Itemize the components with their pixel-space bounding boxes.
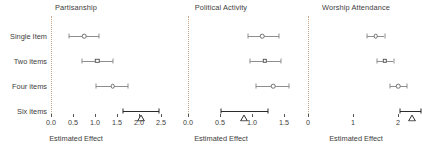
error-bar-cap bbox=[420, 109, 421, 114]
plot-area bbox=[290, 16, 422, 114]
x-axis-tick bbox=[398, 114, 399, 117]
x-axis-tick-label: 0 bbox=[306, 118, 310, 127]
data-point-marker-triangle bbox=[240, 108, 248, 115]
error-bar-cap bbox=[250, 59, 251, 64]
error-bar-cap bbox=[367, 34, 368, 39]
x-axis-tick bbox=[220, 114, 221, 117]
error-bar-cap bbox=[98, 34, 99, 39]
data-point-marker-triangle bbox=[408, 108, 416, 115]
row-label: Four items bbox=[12, 82, 47, 91]
x-axis-title: Estimated Effect bbox=[0, 134, 152, 143]
row-label: Single Item bbox=[10, 32, 47, 41]
panel-title: Worship Attendance bbox=[290, 3, 422, 12]
error-bar-cap bbox=[278, 34, 279, 39]
data-point-marker-circle bbox=[82, 34, 87, 39]
panel-title: Partisanship bbox=[0, 3, 152, 12]
x-axis-tick-label: 2.0 bbox=[134, 118, 144, 127]
x-axis-tick-label: 0.5 bbox=[68, 118, 78, 127]
x-axis-tick bbox=[139, 114, 140, 117]
row-label: Six items bbox=[17, 107, 47, 116]
error-bar-cap bbox=[384, 34, 385, 39]
x-axis-tick bbox=[188, 114, 189, 117]
x-axis-tick-label: 2 bbox=[396, 118, 400, 127]
error-bar-cap bbox=[112, 59, 113, 64]
x-axis-tick bbox=[353, 114, 354, 117]
panel-political-activity: Political Activity 0.00.51.01.5 Estimate… bbox=[152, 0, 290, 158]
error-bar-cap bbox=[81, 59, 82, 64]
x-axis-tick bbox=[308, 114, 309, 117]
data-point-marker-square bbox=[382, 59, 386, 63]
error-bar-cap bbox=[393, 59, 394, 64]
x-axis-tick-label: 0.0 bbox=[46, 118, 56, 127]
x-axis-tick-label: 1.5 bbox=[279, 118, 289, 127]
x-axis-tick bbox=[117, 114, 118, 117]
error-bar-cap bbox=[128, 84, 129, 89]
error-bar-cap bbox=[400, 109, 401, 114]
row-label: Two items bbox=[14, 57, 47, 66]
x-axis-title: Estimated Effect bbox=[290, 134, 422, 143]
x-axis-tick-label: 0.0 bbox=[183, 118, 193, 127]
error-bar-cap bbox=[376, 59, 377, 64]
error-bar-cap bbox=[407, 84, 408, 89]
data-point-marker-circle bbox=[373, 34, 378, 39]
panel-worship-attendance: Worship Attendance 012 Estimated Effect bbox=[290, 0, 422, 158]
error-bar-cap bbox=[280, 59, 281, 64]
error-bar-cap bbox=[69, 34, 70, 39]
plot-area bbox=[152, 16, 290, 114]
data-point-marker-square bbox=[263, 59, 267, 63]
error-bar-cap bbox=[122, 109, 123, 114]
x-axis-tick-label: 0.5 bbox=[215, 118, 225, 127]
x-axis-tick-label: 1 bbox=[351, 118, 355, 127]
data-point-marker-circle bbox=[271, 84, 276, 89]
x-axis-title: Estimated Effect bbox=[152, 134, 290, 143]
data-point-marker-circle bbox=[260, 34, 265, 39]
data-point-marker-circle bbox=[396, 84, 401, 89]
error-bar-cap bbox=[390, 84, 391, 89]
forest-plot-figure: Partisanship Single ItemTwo itemsFour it… bbox=[0, 0, 422, 158]
panel-title: Political Activity bbox=[152, 3, 290, 12]
error-bar-cap bbox=[268, 109, 269, 114]
error-bar-cap bbox=[96, 84, 97, 89]
x-axis-tick bbox=[252, 114, 253, 117]
x-axis-tick bbox=[73, 114, 74, 117]
x-axis-tick bbox=[51, 114, 52, 117]
x-axis-tick-label: 1.5 bbox=[112, 118, 122, 127]
x-axis-tick-label: 1.0 bbox=[90, 118, 100, 127]
x-axis-tick-label: 1.0 bbox=[247, 118, 257, 127]
x-axis-tick bbox=[284, 114, 285, 117]
x-axis-tick bbox=[95, 114, 96, 117]
panel-partisanship: Partisanship Single ItemTwo itemsFour it… bbox=[0, 0, 152, 158]
error-bar-cap bbox=[255, 84, 256, 89]
error-bar-cap bbox=[247, 34, 248, 39]
data-point-marker-triangle bbox=[137, 108, 145, 115]
plot-area: Single ItemTwo itemsFour itemsSix items bbox=[0, 16, 152, 114]
data-point-marker-circle bbox=[110, 84, 115, 89]
data-point-marker-square bbox=[95, 59, 99, 63]
error-bar-cap bbox=[221, 109, 222, 114]
